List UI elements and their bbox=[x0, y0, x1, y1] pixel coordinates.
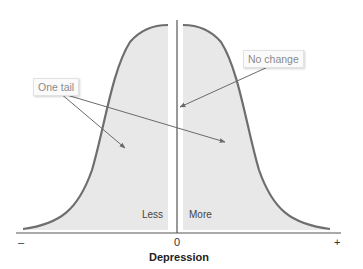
no-change-callout: No change bbox=[243, 50, 304, 68]
x-axis-title: Depression bbox=[149, 251, 209, 263]
tick-max: + bbox=[334, 236, 340, 248]
less-label: Less bbox=[142, 209, 163, 220]
tick-min: – bbox=[18, 236, 24, 248]
normal-curve-diagram bbox=[0, 0, 363, 269]
one-tail-callout: One tail bbox=[33, 78, 79, 96]
more-label: More bbox=[189, 209, 212, 220]
tick-zero: 0 bbox=[174, 236, 180, 248]
left-tail-fill bbox=[23, 25, 168, 230]
